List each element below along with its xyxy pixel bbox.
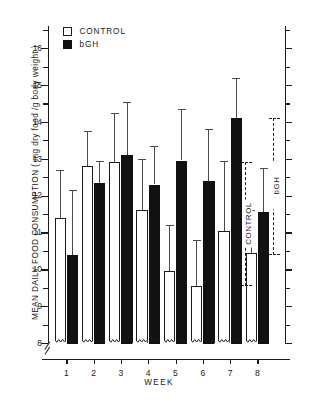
right-tick [285,196,292,197]
error-bar [196,240,197,286]
bar-break-foot-icon [94,337,105,344]
error-bar-cap [166,225,174,226]
error-bar [154,146,155,185]
bar-control [55,218,66,343]
y-tick-major [41,269,48,270]
bracket-arm-top [269,118,280,119]
y-tick-label: 10 [22,265,42,273]
right-tick [285,177,290,178]
error-bar [181,109,182,161]
bar-control [136,210,147,343]
error-bar-cap [111,113,119,114]
y-tick-minor [43,67,48,68]
bracket-arm-bottom [269,254,280,255]
x-tick [94,359,95,364]
bar-break-foot-icon [109,337,120,344]
error-bar [127,102,128,155]
error-bar [60,170,61,218]
error-bar [224,161,225,231]
bar-break-foot-icon [246,337,257,344]
y-tick-label: 16 [22,44,42,52]
x-tick [203,359,204,364]
right-tick [285,85,292,86]
x-tick [176,359,177,364]
bracket-arm-bottom [241,285,252,286]
bar-bgh [258,212,269,343]
error-bar-cap [56,170,64,171]
error-bar-cap [178,109,186,110]
right-tick [285,122,292,123]
bar-bgh [67,255,78,344]
x-tick [121,359,122,364]
y-tick-minor [43,140,48,141]
x-axis-label: WEEK [0,378,318,387]
right-tick [285,214,290,215]
error-bar-cap [220,161,228,162]
right-tick [285,159,292,160]
error-bar [72,190,73,255]
right-tick [285,269,292,270]
bar-bgh [203,181,214,343]
bracket-label: bGH [272,162,281,210]
x-tick-label: 3 [109,368,133,378]
bar-bgh [176,161,187,344]
right-tick [285,306,292,307]
right-tick [285,325,290,326]
range-bracket-bgh: bGH [273,118,274,254]
error-bar-cap [150,146,158,147]
y-tick-minor [43,177,48,178]
x-tick-label: 6 [191,368,215,378]
bar-break-foot-icon [55,337,66,344]
bar-break-foot-icon [176,337,187,344]
y-axis-label: MEAN DAILY FOOD CONSUMPTION ( mg dry foo… [31,28,40,338]
bar-break-foot-icon [136,337,147,344]
y-tick-label: 14 [22,118,42,126]
error-bar-cap [84,131,92,132]
y-tick-label: 13 [22,155,42,163]
right-tick [285,288,290,289]
error-bar [169,225,170,271]
bar-break-foot-icon [191,337,202,344]
y-tick-major [41,85,48,86]
error-bar-cap [260,168,268,169]
y-tick-major [41,122,48,123]
bar-control [82,166,93,343]
bar-break-foot-icon [258,337,269,344]
bar-break-foot-icon [218,337,229,344]
y-tick-major [41,232,48,233]
y-tick-major [41,196,48,197]
range-bracket-control: CONTROL [245,162,246,286]
y-tick-minor [43,325,48,326]
y-tick-minor [43,214,48,215]
bar-control [191,286,202,343]
bar-break-foot-icon [82,337,93,344]
error-bar [236,78,237,119]
error-bar [87,131,88,166]
y-tick-label: 12 [22,191,42,199]
x-tick-label: 1 [54,368,78,378]
right-tick [285,103,290,104]
y-tick-label: 15 [22,81,42,89]
bar-break-foot-icon [231,337,242,344]
axis-break-icon [43,346,54,358]
right-axis-line [285,26,286,343]
bar-break-foot-icon [121,337,132,344]
bar-control [109,162,120,343]
bar-break-foot-icon [149,337,160,344]
y-tick-minor [43,251,48,252]
error-bar-cap [69,190,77,191]
y-tick-major [41,343,48,344]
y-axis-line [48,26,49,343]
figure: MEAN DAILY FOOD CONSUMPTION ( mg dry foo… [0,0,318,399]
bar-bgh [231,118,242,343]
right-tick [285,67,290,68]
right-tick [285,30,290,31]
bar-control [218,231,229,343]
error-bar-cap [123,102,131,103]
y-tick-label: 11 [22,228,42,236]
error-bar [114,113,115,163]
bar-control [164,271,175,343]
y-tick-label: 8 [22,339,42,347]
x-tick [66,359,67,364]
right-tick [285,251,290,252]
